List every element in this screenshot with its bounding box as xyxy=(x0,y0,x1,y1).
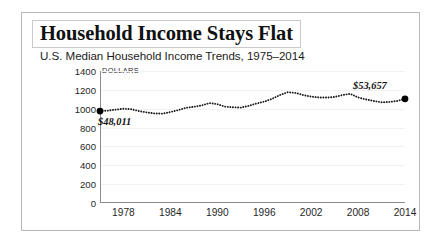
x-axis-tick-label: 1978 xyxy=(112,207,135,218)
plot-area: $48,011 $53,657 140012001000800600400200… xyxy=(100,71,405,203)
chart-figure: Household Income Stays Flat U.S. Median … xyxy=(21,12,420,231)
data-point-marker xyxy=(97,108,104,115)
x-axis-tick-label: 2002 xyxy=(300,207,323,218)
x-axis-tick-label: 1984 xyxy=(159,207,182,218)
x-axis-tick-label: 1996 xyxy=(253,207,276,218)
chart-subtitle: U.S. Median Household Income Trends, 197… xyxy=(40,49,305,62)
y-axis-tick-label: 800 xyxy=(80,122,96,133)
y-axis-tick-label: 600 xyxy=(80,141,96,152)
annotation-start-value: $48,011 xyxy=(98,116,131,127)
y-axis-tick-label: 1400 xyxy=(75,66,96,77)
y-axis-tick-label: 1200 xyxy=(75,84,96,95)
series-line xyxy=(100,92,405,113)
y-axis-tick-label: 200 xyxy=(80,179,96,190)
y-axis-tick-label: 400 xyxy=(80,160,96,171)
data-point-marker xyxy=(402,95,409,102)
page-title: Household Income Stays Flat xyxy=(40,22,293,45)
chart-title-box: Household Income Stays Flat xyxy=(32,20,301,48)
x-axis-tick-label: 2008 xyxy=(347,207,370,218)
y-axis-tick-label: 0 xyxy=(91,198,96,209)
annotation-end-value: $53,657 xyxy=(353,80,387,91)
x-axis-tick-label: 2014 xyxy=(394,207,417,218)
x-axis-tick-label: 1990 xyxy=(206,207,229,218)
y-axis-tick-label: 1000 xyxy=(75,103,96,114)
